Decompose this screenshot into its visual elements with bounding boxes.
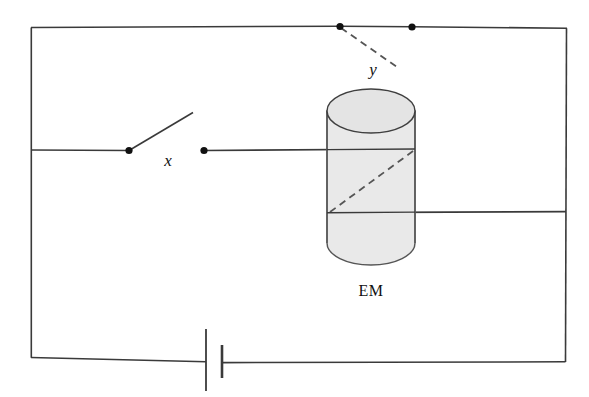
switch-x[interactable] <box>125 113 207 155</box>
wire-top-left-segment <box>31 26 340 27</box>
switch-y-label: y <box>367 60 377 79</box>
circuit-diagram-canvas: x y EM <box>0 0 589 397</box>
wire-top-right-segment <box>412 27 567 28</box>
electromagnet-cylinder <box>327 89 415 265</box>
switch-x-blade[interactable] <box>129 113 193 151</box>
wire-top-middle-segment <box>340 26 412 27</box>
wire-crossing-cylinder-lower <box>327 212 415 213</box>
circuit-diagram-figure: x y EM <box>0 0 589 397</box>
switch-x-right-terminal[interactable] <box>200 147 207 154</box>
wire-bottom-left-segment <box>31 358 206 362</box>
cylinder-body <box>327 111 415 265</box>
electromagnet-label: EM <box>359 282 384 299</box>
wire-crossing-cylinder-upper <box>327 149 415 150</box>
wire-mid-left-to-switch-x <box>31 150 129 151</box>
outer-circuit-loop <box>31 26 567 362</box>
switch-x-label: x <box>163 151 172 170</box>
wire-right-rail <box>566 28 567 362</box>
switch-y-right-terminal[interactable] <box>408 23 415 30</box>
battery-symbol <box>206 329 222 391</box>
switch-y-left-terminal[interactable] <box>336 23 343 30</box>
switch-x-left-terminal[interactable] <box>125 147 132 154</box>
wire-bottom-right-segment <box>222 362 566 363</box>
cylinder-top-ellipse <box>327 89 415 133</box>
